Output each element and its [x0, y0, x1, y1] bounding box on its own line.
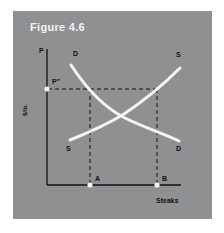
quantity-b-label: B	[162, 175, 167, 182]
y-unit-label: $/lb.	[22, 104, 28, 116]
supply-curve	[70, 68, 180, 140]
demand-label-top: D	[73, 50, 78, 57]
point-a	[87, 182, 92, 187]
demand-label-bottom: D	[176, 145, 181, 152]
supply-label-top: S	[176, 51, 181, 58]
point-b	[154, 182, 159, 187]
supply-demand-chart	[0, 0, 224, 233]
quantity-a-label: A	[95, 175, 100, 182]
p-double-prime-label: P''	[52, 78, 60, 85]
p-double-prime-point	[44, 86, 49, 91]
supply-label-bottom: S	[66, 145, 71, 152]
demand-curve	[71, 65, 179, 141]
p-axis-label: P	[39, 47, 44, 54]
x-axis-label: Steaks	[156, 197, 179, 204]
